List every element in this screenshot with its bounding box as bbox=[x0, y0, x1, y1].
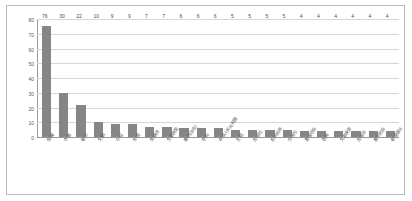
bar-value-label: 5 bbox=[283, 14, 286, 19]
x-axis-tick-label: 文献 bbox=[98, 133, 106, 142]
bar-item[interactable]: 10 bbox=[90, 20, 107, 137]
y-axis-tick-label: 70 bbox=[28, 32, 34, 37]
x-axis-label-slot: 机构名称 bbox=[262, 139, 279, 194]
y-axis-tick-label: 40 bbox=[28, 77, 34, 82]
bar-value-label: 6 bbox=[179, 14, 182, 19]
bar-item[interactable]: 5 bbox=[261, 20, 278, 137]
x-axis-label-slot: 作者 bbox=[55, 139, 72, 194]
bar-value-label: 76 bbox=[42, 14, 48, 19]
x-axis-label-slot: 主题 bbox=[228, 139, 245, 194]
x-axis-label-slot: 文献来源 bbox=[331, 139, 348, 194]
x-axis-tick-label: 被引 bbox=[81, 133, 89, 142]
bar-value-label: 10 bbox=[94, 14, 100, 19]
bar-value-label: 4 bbox=[334, 14, 337, 19]
bar-value-label: 7 bbox=[145, 14, 148, 19]
bar-item[interactable]: 9 bbox=[124, 20, 141, 137]
bar-item[interactable]: 6 bbox=[176, 20, 193, 137]
x-axis-tick-label: 引证 bbox=[116, 133, 124, 142]
bar-item[interactable]: 9 bbox=[107, 20, 124, 137]
bar-value-label: 7 bbox=[162, 14, 165, 19]
y-axis-tick-label: 50 bbox=[28, 62, 34, 67]
x-axis-label-slot: 中华人民共和国 bbox=[210, 139, 227, 194]
x-axis-tick-label: 学科 bbox=[202, 133, 210, 142]
bar-value-label: 5 bbox=[265, 14, 268, 19]
bar-value-label: 5 bbox=[231, 14, 234, 19]
x-axis-label-slot: 引证 bbox=[107, 139, 124, 194]
bar-item[interactable]: 4 bbox=[365, 20, 382, 137]
y-axis-tick-label: 30 bbox=[28, 91, 34, 96]
x-axis-label-slot: 分类号 bbox=[279, 139, 296, 194]
plot-area: 01020304050607080 7630221099776665555444… bbox=[37, 20, 399, 138]
bar-item[interactable]: 4 bbox=[382, 20, 399, 137]
x-axis-label-slot: 文献 bbox=[90, 139, 107, 194]
x-axis-labels: 馆藏作者被引文献引证年度关键词文献类型期刊(杂志)学科中华人民共和国主题出版社机… bbox=[38, 139, 400, 194]
x-axis-label-slot: 收录情况 bbox=[383, 139, 400, 194]
x-axis-tick-label: 年度 bbox=[133, 133, 141, 142]
x-axis-tick-label: 作者 bbox=[64, 133, 72, 142]
bar-item[interactable]: 5 bbox=[279, 20, 296, 137]
y-axis-tick-label: 20 bbox=[28, 106, 34, 111]
bar-value-label: 6 bbox=[197, 14, 200, 19]
bar-item[interactable]: 6 bbox=[193, 20, 210, 137]
x-axis-label-slot: 期刊(杂志) bbox=[176, 139, 193, 194]
x-axis-tick-label: 语种 bbox=[322, 133, 330, 142]
bar-item[interactable]: 4 bbox=[347, 20, 364, 137]
x-axis-label-slot: 文献类型 bbox=[159, 139, 176, 194]
bar-value-label: 5 bbox=[248, 14, 251, 19]
bar-value-label: 9 bbox=[128, 14, 131, 19]
bar-value-label: 6 bbox=[214, 14, 217, 19]
bar-value-label: 4 bbox=[369, 14, 372, 19]
bar-item[interactable]: 4 bbox=[330, 20, 347, 137]
bar[interactable]: 30 bbox=[59, 93, 68, 137]
bar-item[interactable]: 4 bbox=[313, 20, 330, 137]
x-axis-label-slot: 年度 bbox=[124, 139, 141, 194]
bar-item[interactable]: 7 bbox=[141, 20, 158, 137]
bar-value-label: 4 bbox=[317, 14, 320, 19]
x-axis-label-slot: 语种 bbox=[314, 139, 331, 194]
x-axis-label-slot: 关键词 bbox=[141, 139, 158, 194]
bar[interactable]: 76 bbox=[42, 26, 51, 137]
x-axis-label-slot: 出版年 bbox=[348, 139, 365, 194]
bar-value-label: 4 bbox=[386, 14, 389, 19]
x-axis-label-slot: 出版社 bbox=[245, 139, 262, 194]
bar-value-label: 9 bbox=[111, 14, 114, 19]
x-axis-tick-label: 主题 bbox=[236, 133, 244, 142]
bar-item[interactable]: 7 bbox=[158, 20, 175, 137]
bar-item[interactable]: 6 bbox=[210, 20, 227, 137]
bar-value-label: 4 bbox=[351, 14, 354, 19]
y-axis-tick-label: 0 bbox=[31, 136, 34, 141]
bar-item[interactable]: 76 bbox=[38, 20, 55, 137]
bar-item[interactable]: 22 bbox=[72, 20, 89, 137]
x-axis-label-slot: 学科 bbox=[193, 139, 210, 194]
x-axis-tick-label: 馆藏 bbox=[47, 133, 55, 142]
chart-frame: 01020304050607080 7630221099776665555444… bbox=[6, 5, 405, 195]
x-axis-label-slot: 馆藏 bbox=[38, 139, 55, 194]
x-axis-label-slot: 基金项目 bbox=[297, 139, 314, 194]
bar-value-label: 22 bbox=[76, 14, 82, 19]
y-axis-tick-label: 60 bbox=[28, 47, 34, 52]
x-axis-label-slot: 被引 bbox=[72, 139, 89, 194]
y-axis-tick-label: 80 bbox=[28, 18, 34, 23]
bar-item[interactable]: 4 bbox=[296, 20, 313, 137]
x-axis-label-slot: 期刊栏目 bbox=[365, 139, 382, 194]
bar-item[interactable]: 30 bbox=[55, 20, 72, 137]
y-axis-tick-label: 10 bbox=[28, 121, 34, 126]
bar-series: 7630221099776665555444444 bbox=[38, 20, 399, 137]
bar-item[interactable]: 5 bbox=[244, 20, 261, 137]
bar-value-label: 4 bbox=[300, 14, 303, 19]
bar-value-label: 30 bbox=[59, 14, 65, 19]
